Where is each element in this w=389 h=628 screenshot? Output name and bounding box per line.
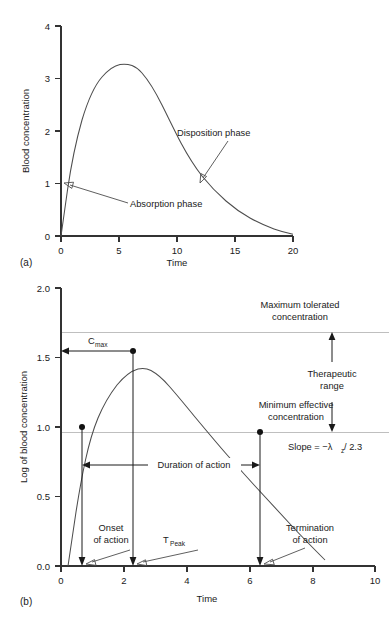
slope-annotation: Slope = −λ z / 2.3 bbox=[288, 442, 362, 454]
panel-a-xtick-10: 10 bbox=[172, 245, 183, 256]
cmax-subscript: max bbox=[95, 341, 108, 348]
slope-suffix: / 2.3 bbox=[344, 442, 362, 452]
panel-a-ytick-2: 2 bbox=[45, 126, 50, 137]
panel-a-xtick-0: 0 bbox=[58, 245, 63, 256]
onset-of-action-annotation: Onset of action bbox=[86, 523, 130, 565]
termination-arrowhead bbox=[264, 559, 274, 565]
panel-b-chart: 2.0 1.5 1.0 0.5 0.0 0 2 4 6 8 10 bbox=[0, 280, 389, 628]
panel-a-ytick-3: 3 bbox=[45, 73, 50, 84]
panel-a-ytick-1: 1 bbox=[45, 178, 50, 189]
tpeak-annotation: T Peak bbox=[137, 535, 198, 566]
termination-line2: of action bbox=[292, 535, 327, 545]
max-tolerated-concentration-caption: Maximum tolerated concentration bbox=[260, 300, 339, 322]
panel-b-x-ticks: 0 2 4 6 8 10 bbox=[58, 566, 380, 586]
panel-a-chart: 4 3 2 1 0 0 5 10 15 20 Absorption phase bbox=[0, 0, 389, 280]
tpeak-drop-arrowhead bbox=[130, 557, 137, 566]
therapeutic-down-arrowhead bbox=[329, 424, 336, 432]
panel-b-y-ticks: 2.0 1.5 1.0 0.5 0.0 bbox=[37, 283, 61, 572]
onset-drop-arrowhead bbox=[79, 557, 86, 566]
duration-of-action-label: Duration of action bbox=[158, 460, 231, 470]
panel-b-ytick-0-0: 0.0 bbox=[37, 561, 50, 572]
termination-line1: Termination bbox=[286, 523, 334, 533]
panel-a-x-axis-title: Time bbox=[167, 257, 188, 268]
panel-b-xtick-8: 8 bbox=[310, 575, 315, 586]
disposition-phase-label: Disposition phase bbox=[177, 128, 250, 138]
therapeutic-range-line2: range bbox=[320, 381, 344, 391]
panel-b-ytick-1-0: 1.0 bbox=[37, 422, 50, 433]
panel-b-xtick-6: 6 bbox=[247, 575, 252, 586]
panel-a-y-axis-title: Blood concentration bbox=[20, 89, 31, 173]
mtc-line2: concentration bbox=[272, 312, 328, 322]
panel-a-y-ticks: 4 3 2 1 0 bbox=[45, 21, 61, 242]
panel-b-ytick-2-0: 2.0 bbox=[37, 283, 50, 294]
onset-line1: Onset bbox=[99, 523, 124, 533]
panel-a-xtick-5: 5 bbox=[116, 245, 121, 256]
panel-a-ytick-0: 0 bbox=[45, 231, 50, 242]
panel-b-xtick-0: 0 bbox=[58, 575, 63, 586]
tpeak-label: T bbox=[163, 535, 169, 545]
panel-b-ytick-0-5: 0.5 bbox=[37, 491, 50, 502]
panel-a-xtick-20: 20 bbox=[288, 245, 299, 256]
mec-line1: Minimum effective bbox=[259, 400, 334, 410]
cmax-label: C bbox=[88, 336, 95, 346]
mtc-line1: Maximum tolerated bbox=[260, 300, 339, 310]
tpeak-subscript: Peak bbox=[170, 540, 186, 547]
duration-left-arrowhead bbox=[82, 462, 90, 469]
panel-a-x-ticks: 0 5 10 15 20 bbox=[58, 236, 298, 256]
mec-line2: concentration bbox=[268, 412, 324, 422]
therapeutic-up-arrowhead bbox=[329, 332, 336, 340]
absorption-phase-label: Absorption phase bbox=[130, 199, 202, 209]
panel-b-xtick-10: 10 bbox=[370, 575, 381, 586]
panel-a-ytick-4: 4 bbox=[45, 21, 50, 32]
panel-a-label: (a) bbox=[20, 257, 32, 268]
min-effective-concentration-caption: Minimum effective concentration bbox=[259, 400, 334, 422]
panel-a-absorption-annotation: Absorption phase bbox=[64, 182, 202, 209]
tpeak-arrowhead bbox=[137, 560, 147, 566]
duration-right-arrowhead bbox=[252, 462, 260, 469]
panel-b-xtick-2: 2 bbox=[121, 575, 126, 586]
cmax-arrowhead bbox=[61, 348, 69, 355]
termination-drop-arrowhead bbox=[257, 557, 264, 566]
pharmacokinetics-figure: 4 3 2 1 0 0 5 10 15 20 Absorption phase bbox=[0, 0, 389, 628]
onset-arrowhead bbox=[86, 560, 96, 566]
cmax-measure: C max bbox=[61, 336, 133, 354]
therapeutic-range-line1: Therapeutic bbox=[307, 369, 356, 379]
panel-b-ytick-1-5: 1.5 bbox=[37, 352, 50, 363]
panel-b-xtick-4: 4 bbox=[184, 575, 189, 586]
panel-b-x-axis-title: Time bbox=[197, 593, 218, 604]
panel-a-xtick-15: 15 bbox=[230, 245, 241, 256]
slope-label: Slope = −λ bbox=[288, 442, 333, 452]
panel-b-label: (b) bbox=[20, 596, 32, 607]
panel-a-curve bbox=[61, 64, 293, 236]
panel-b-y-axis-title: Log of blood concentration bbox=[18, 371, 29, 483]
onset-line2: of action bbox=[93, 535, 128, 545]
duration-of-action-measure: Duration of action bbox=[82, 458, 260, 472]
